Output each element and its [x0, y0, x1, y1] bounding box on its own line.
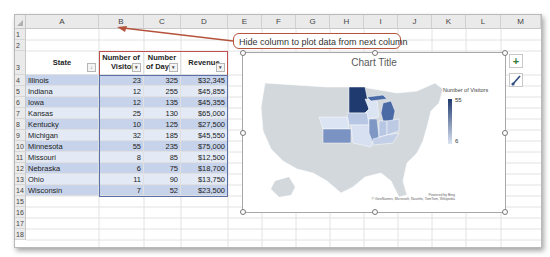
cell-state[interactable]: Minnesota: [26, 141, 99, 152]
cell-revenue[interactable]: $45,550: [181, 130, 228, 141]
cell-revenue[interactable]: $32,345: [181, 75, 228, 86]
cell-state[interactable]: Iowa: [26, 97, 99, 108]
sort-filter-icon[interactable]: ↓: [87, 63, 96, 72]
chart-elements-button[interactable]: +: [509, 54, 523, 68]
header-state[interactable]: State ↓: [26, 51, 99, 75]
filter-dropdown-icon[interactable]: ▾: [216, 63, 225, 72]
cell-days[interactable]: 85: [144, 152, 181, 163]
row-header-12[interactable]: 12: [15, 163, 26, 174]
filter-dropdown-icon[interactable]: ▾: [132, 63, 141, 72]
cell-revenue[interactable]: $27,500: [181, 119, 228, 130]
column-header-k[interactable]: K: [432, 15, 466, 29]
header-revenue[interactable]: Revenue ▾: [181, 51, 228, 75]
cell-days[interactable]: 125: [144, 119, 181, 130]
filter-dropdown-icon[interactable]: ▾: [169, 63, 178, 72]
resize-handle-top[interactable]: [372, 50, 378, 56]
cell-visitors[interactable]: 6: [99, 163, 144, 174]
resize-handle-top-right[interactable]: [502, 50, 508, 56]
cell-revenue[interactable]: $45,355: [181, 97, 228, 108]
cell-days[interactable]: 75: [144, 163, 181, 174]
cell-visitors[interactable]: 25: [99, 108, 144, 119]
column-header-m[interactable]: M: [501, 15, 541, 29]
map-chart[interactable]: Chart Title: [242, 52, 506, 213]
legend-min-value: 6: [455, 138, 458, 144]
cell-visitors[interactable]: 7: [99, 185, 144, 196]
row-header-16[interactable]: 16: [15, 207, 26, 218]
row-header-4[interactable]: 4: [15, 75, 26, 86]
cell-visitors[interactable]: 11: [99, 174, 144, 185]
column-header-f[interactable]: F: [262, 15, 296, 29]
legend-max-value: 55: [455, 97, 462, 103]
cell-days[interactable]: 185: [144, 130, 181, 141]
row-header-14[interactable]: 14: [15, 185, 26, 196]
row-header-6[interactable]: 6: [15, 97, 26, 108]
column-header-j[interactable]: J: [398, 15, 432, 29]
row-header-10[interactable]: 10: [15, 141, 26, 152]
row-header-15[interactable]: 15: [15, 196, 26, 207]
cell-state[interactable]: Kansas: [26, 108, 99, 119]
header-revenue-label: Revenue: [188, 58, 219, 67]
row-header-9[interactable]: 9: [15, 130, 26, 141]
cell-state[interactable]: Nebraska: [26, 163, 99, 174]
resize-handle-bottom-right[interactable]: [502, 209, 508, 215]
cell-state[interactable]: Illinois: [26, 75, 99, 86]
cell-state[interactable]: Indiana: [26, 86, 99, 97]
row-header-17[interactable]: 17: [15, 218, 26, 229]
resize-handle-bottom-left[interactable]: [240, 209, 246, 215]
cell-days[interactable]: 90: [144, 174, 181, 185]
cell-state[interactable]: Ohio: [26, 174, 99, 185]
cell-state[interactable]: Wisconsin: [26, 185, 99, 196]
select-all-corner[interactable]: [15, 15, 26, 29]
cell-state[interactable]: Missouri: [26, 152, 99, 163]
chart-title[interactable]: Chart Title: [243, 57, 505, 68]
row-header-18[interactable]: 18: [15, 229, 26, 240]
row-header-11[interactable]: 11: [15, 152, 26, 163]
column-header-i[interactable]: I: [364, 15, 398, 29]
cell-revenue[interactable]: $18,700: [181, 163, 228, 174]
spreadsheet: A B C D E F G H I J K L M 1 2 3 4 5 6 7 …: [14, 14, 542, 248]
cell-revenue[interactable]: $23,500: [181, 185, 228, 196]
row-header-3[interactable]: 3: [15, 51, 26, 75]
row-header-13[interactable]: 13: [15, 174, 26, 185]
column-header-a[interactable]: A: [26, 15, 99, 29]
cell-visitors[interactable]: 12: [99, 97, 144, 108]
cell-visitors[interactable]: 23: [99, 75, 144, 86]
cell-revenue[interactable]: $12,500: [181, 152, 228, 163]
cell-revenue[interactable]: $75,000: [181, 141, 228, 152]
cell-days[interactable]: 255: [144, 86, 181, 97]
row-header-5[interactable]: 5: [15, 86, 26, 97]
cell-visitors[interactable]: 55: [99, 141, 144, 152]
column-header-l[interactable]: L: [466, 15, 501, 29]
cell-days[interactable]: 325: [144, 75, 181, 86]
cell-days[interactable]: 130: [144, 108, 181, 119]
resize-handle-right[interactable]: [502, 130, 508, 136]
cell-state[interactable]: Kentucky: [26, 119, 99, 130]
row-header-7[interactable]: 7: [15, 108, 26, 119]
cell-days[interactable]: 52: [144, 185, 181, 196]
column-header-h[interactable]: H: [330, 15, 364, 29]
row-header-2[interactable]: 2: [15, 40, 26, 51]
chart-styles-button[interactable]: [509, 73, 523, 87]
cell-days[interactable]: 235: [144, 141, 181, 152]
cell-state[interactable]: Michigan: [26, 130, 99, 141]
resize-handle-bottom[interactable]: [372, 209, 378, 215]
state-nebraska: [319, 117, 349, 129]
resize-handle-left[interactable]: [240, 130, 246, 136]
cell-days[interactable]: 135: [144, 97, 181, 108]
cell-visitors[interactable]: 32: [99, 130, 144, 141]
header-visitors[interactable]: Number of Visitors ▾: [99, 51, 144, 75]
cell-revenue[interactable]: $13,750: [181, 174, 228, 185]
header-days[interactable]: Number of Day ▾: [144, 51, 181, 75]
cell-visitors[interactable]: 10: [99, 119, 144, 130]
legend-color-scale: [448, 99, 452, 144]
brush-icon: [510, 74, 522, 86]
cell-visitors[interactable]: 12: [99, 86, 144, 97]
row-header-8[interactable]: 8: [15, 119, 26, 130]
cell-revenue[interactable]: $45,855: [181, 86, 228, 97]
cell-revenue[interactable]: $65,000: [181, 108, 228, 119]
resize-handle-top-left[interactable]: [240, 50, 246, 56]
column-header-g[interactable]: G: [296, 15, 330, 29]
row-header-1[interactable]: 1: [15, 29, 26, 40]
us-map: [257, 77, 447, 207]
cell-visitors[interactable]: 8: [99, 152, 144, 163]
